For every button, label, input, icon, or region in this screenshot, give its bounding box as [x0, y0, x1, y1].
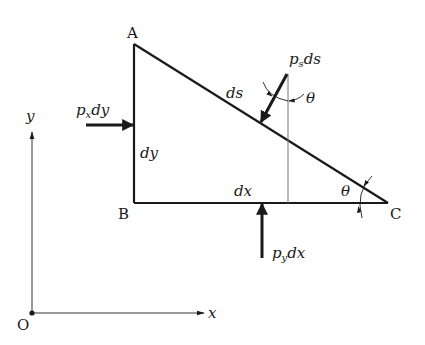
force-py-label: pydx: [272, 244, 306, 263]
side-label-ds: ds: [226, 84, 244, 102]
origin-label: O: [17, 316, 29, 334]
coordinate-axes: O y x: [17, 107, 217, 334]
point-label-c: C: [390, 205, 401, 223]
triangle-element: [134, 44, 388, 203]
side-label-dx: dx: [234, 182, 253, 200]
point-label-b: B: [118, 205, 129, 223]
diagram-canvas: A B C dy dx ds pxdy pydx psds θ θ: [0, 0, 425, 345]
force-px: pxdy: [76, 101, 133, 125]
x-axis-label: x: [208, 304, 217, 322]
force-px-label: pxdy: [76, 101, 110, 120]
angle-label-c: θ: [341, 182, 350, 200]
force-py: pydx: [262, 204, 306, 263]
origin-point: [29, 310, 34, 315]
angle-label-ps: θ: [306, 89, 315, 107]
force-ps: psds: [261, 50, 321, 122]
side-label-dy: dy: [140, 144, 159, 162]
force-ps-label: psds: [289, 50, 321, 69]
point-label-a: A: [126, 24, 138, 42]
y-axis-label: y: [25, 107, 35, 125]
side-ac: [134, 44, 388, 203]
force-ps-arrow: [261, 74, 287, 122]
